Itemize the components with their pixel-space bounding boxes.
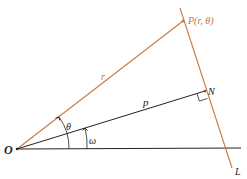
label-N: N bbox=[207, 86, 216, 97]
label-p: p bbox=[142, 96, 149, 108]
point-O bbox=[16, 148, 18, 150]
line-L bbox=[180, 8, 232, 168]
label-r: r bbox=[101, 71, 105, 82]
polar-line-diagram: O P(r, θ) N L r p θ ω bbox=[0, 0, 247, 179]
right-angle-marker bbox=[197, 94, 207, 102]
segment-r bbox=[17, 21, 183, 149]
label-P: P(r, θ) bbox=[187, 15, 214, 27]
point-N bbox=[204, 90, 207, 93]
segment-p bbox=[17, 91, 205, 149]
label-omega: ω bbox=[89, 135, 96, 146]
polar-axis bbox=[17, 148, 241, 149]
point-P bbox=[182, 20, 185, 23]
label-origin: O bbox=[4, 143, 13, 157]
angle-omega-arc bbox=[85, 128, 87, 149]
label-L: L bbox=[234, 166, 241, 177]
label-theta: θ bbox=[66, 121, 71, 132]
